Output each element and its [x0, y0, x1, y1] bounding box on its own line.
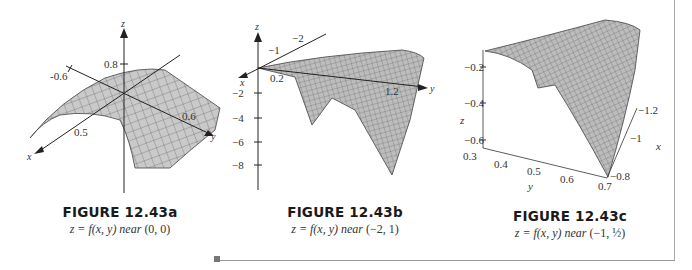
- y-axis-label: y: [210, 131, 216, 142]
- y-axis-label: y: [527, 180, 533, 192]
- z-axis-label: z: [460, 114, 465, 126]
- x-tick: −1: [630, 132, 642, 144]
- frame-border-bottom: [215, 260, 675, 261]
- frame-border-right: [674, 0, 675, 261]
- figure-subtitle: z = f(x, y) near (−2, 1): [245, 222, 445, 237]
- subtitle-point: (−2, 1): [366, 222, 399, 236]
- caption-b: FIGURE 12.43b z = f(x, y) near (−2, 1): [245, 204, 445, 237]
- y-tick: 1.2: [385, 85, 399, 97]
- subtitle-formula: z = f(x, y) near: [291, 222, 363, 236]
- square-marker: [214, 256, 220, 262]
- y-tick: 0.6: [182, 110, 196, 122]
- caption-a: FIGURE 12.43a z = f(x, y) near (0, 0): [20, 204, 220, 237]
- y-tick: -0.6: [50, 70, 68, 82]
- y-axis-label: y: [429, 83, 435, 94]
- x-tick: −0.8: [610, 170, 630, 182]
- surface-plot-c: −0.2 −0.4 −0.6 z 0.3 0.4 0.5 0.6 0.7 y −…: [460, 0, 674, 200]
- figure-title: FIGURE 12.43a: [20, 204, 220, 220]
- caption-c: FIGURE 12.43c z = f(x, y) near (−1, ½): [465, 208, 675, 241]
- y-tick: 0.2: [270, 72, 284, 84]
- z-tick: −8: [232, 159, 244, 171]
- y-tick: 0.5: [527, 165, 541, 177]
- z-axis-label: z: [120, 18, 125, 29]
- x-axis-label: x: [655, 140, 661, 152]
- figure-12-43a: z 0.8 y -0.6 0.6 x 0.5: [0, 0, 230, 200]
- x-tick: 0.5: [74, 126, 88, 138]
- figure-title: FIGURE 12.43b: [245, 204, 445, 220]
- figure-title: FIGURE 12.43c: [465, 208, 675, 224]
- subtitle-point: (0, 0): [144, 222, 170, 236]
- subtitle-formula: z = f(x, y) near: [70, 222, 142, 236]
- figure-subtitle: z = f(x, y) near (−1, ½): [465, 226, 675, 241]
- surface-plot-a: z 0.8 y -0.6 0.6 x 0.5: [0, 0, 230, 200]
- subtitle-formula: z = f(x, y) near: [515, 226, 587, 240]
- figure-12-43c: −0.2 −0.4 −0.6 z 0.3 0.4 0.5 0.6 0.7 y −…: [460, 0, 674, 200]
- x-tick: −2: [292, 32, 304, 44]
- x-tick: −1: [268, 44, 280, 56]
- z-tick: −6: [232, 136, 244, 148]
- y-tick: 0.4: [494, 158, 508, 170]
- y-tick: 0.6: [560, 173, 574, 185]
- z-tick: −2: [232, 87, 244, 99]
- figure-12-43b: z −2 −4 −6 −8 y 0.2 1.2 x −1 −2: [220, 0, 460, 200]
- z-tick: −4: [232, 112, 244, 124]
- figure-subtitle: z = f(x, y) near (0, 0): [20, 222, 220, 237]
- x-axis-label: x: [239, 77, 245, 88]
- surface-plot-b: z −2 −4 −6 −8 y 0.2 1.2 x −1 −2: [220, 0, 460, 200]
- z-tick: 0.8: [104, 58, 118, 70]
- subtitle-point: (−1, ½): [589, 226, 625, 240]
- z-axis-label: z: [254, 21, 259, 32]
- x-axis-label: x: [26, 151, 32, 162]
- x-tick: −1.2: [638, 104, 658, 116]
- y-tick: 0.3: [463, 150, 477, 162]
